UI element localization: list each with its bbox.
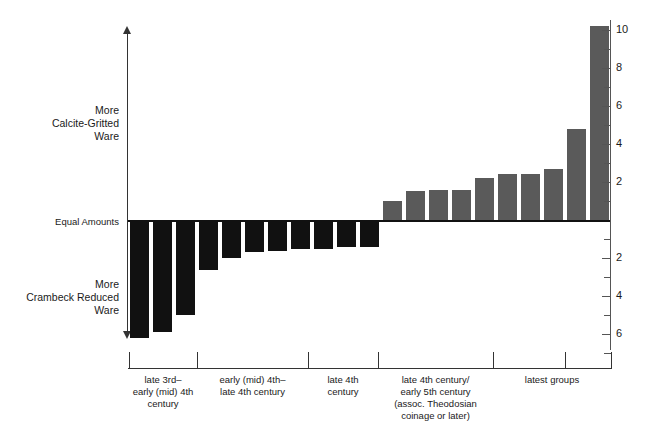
right-axis-major-tick: [602, 334, 611, 335]
category-group-label-1: late 3rd– early (mid) 4th century: [128, 374, 198, 410]
right-axis-tick-label: 4: [616, 289, 622, 301]
ceramic-ratio-bar-chart: More Calcite-Gritted Ware Equal Amounts …: [0, 0, 657, 440]
right-axis-major-tick: [602, 258, 611, 259]
right-axis-minor-tick: [604, 163, 611, 164]
bar-4: [199, 220, 217, 270]
right-axis-major-tick: [602, 182, 611, 183]
category-axis-tick: [611, 352, 612, 369]
bar-13: [406, 191, 424, 220]
right-axis-major-tick: [602, 296, 611, 297]
bar-8: [291, 220, 309, 249]
category-axis-tick: [308, 352, 309, 369]
bar-21: [590, 26, 608, 220]
axis-annotation-lower: More Crambeck Reduced Ware: [7, 278, 119, 317]
bar-10: [337, 220, 355, 247]
bar-12: [383, 201, 401, 220]
right-axis-tick-label: 6: [616, 99, 622, 111]
category-group-label-3: late 4th century: [308, 374, 378, 398]
right-axis-tick-label: 4: [616, 137, 622, 149]
right-axis-minor-tick: [604, 277, 611, 278]
category-axis-line: [128, 368, 612, 369]
bar-5: [222, 220, 240, 258]
right-axis-minor-tick: [604, 49, 611, 50]
bar-15: [452, 190, 470, 221]
bar-17: [498, 174, 516, 220]
category-axis-tick: [378, 352, 379, 369]
category-axis-tick: [565, 352, 566, 369]
category-axis-tick: [493, 352, 494, 369]
right-axis-major-tick: [602, 30, 611, 31]
right-axis-minor-tick: [604, 239, 611, 240]
bar-16: [475, 178, 493, 220]
plot-area: More Calcite-Gritted Ware Equal Amounts …: [0, 0, 657, 440]
right-axis-minor-tick: [604, 201, 611, 202]
category-group-label-2: early (mid) 4th– late 4th century: [197, 374, 308, 398]
axis-annotation-upper: More Calcite-Gritted Ware: [15, 104, 119, 143]
right-axis-minor-tick: [604, 87, 611, 88]
bar-20: [567, 129, 585, 220]
bar-2: [153, 220, 171, 332]
bar-14: [429, 190, 447, 221]
bar-19: [544, 169, 562, 220]
category-axis-tick: [197, 352, 198, 369]
bar-3: [176, 220, 194, 315]
category-axis-tick: [129, 352, 130, 369]
right-axis-tick-label: 2: [616, 251, 622, 263]
category-group-label-4: late 4th century/ early 5th century (ass…: [378, 374, 493, 422]
category-group-label-5: latest groups: [493, 374, 611, 386]
bar-18: [521, 174, 539, 220]
right-axis-tick-label: 10: [616, 23, 628, 35]
right-axis-tick-label: 6: [616, 327, 622, 339]
bar-11: [360, 220, 378, 247]
right-axis-major-tick: [602, 144, 611, 145]
right-axis-tick-label: 8: [616, 61, 622, 73]
right-value-axis: [610, 20, 611, 350]
axis-annotation-zero: Equal Amounts: [15, 215, 119, 228]
bar-6: [245, 220, 263, 252]
right-axis-minor-tick: [604, 125, 611, 126]
right-axis-major-tick: [602, 106, 611, 107]
right-axis-tick-label: 2: [616, 175, 622, 187]
bar-9: [314, 220, 332, 249]
right-axis-major-tick: [602, 68, 611, 69]
bar-1: [130, 220, 148, 338]
right-axis-minor-tick: [604, 315, 611, 316]
right-axis-minor-tick: [604, 353, 611, 354]
bar-7: [268, 220, 286, 251]
